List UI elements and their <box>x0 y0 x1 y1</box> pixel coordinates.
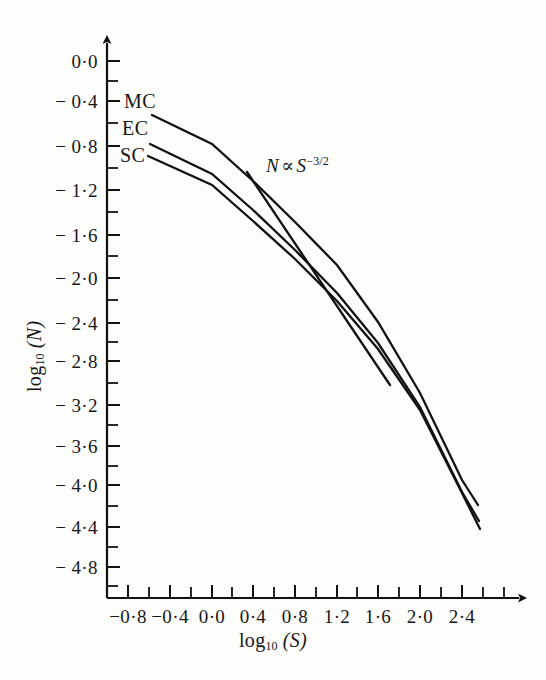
curve-label-sc: SC <box>120 145 145 165</box>
y-axis-title-subscript: 10 <box>33 354 47 366</box>
y-tick-label: − 2·0 <box>32 269 98 288</box>
y-axis-title: log10 (N) <box>24 321 46 392</box>
curve-sc <box>148 156 480 529</box>
y-tick-label: − 4·8 <box>32 558 98 577</box>
y-tick-label: − 1·6 <box>32 226 98 245</box>
y-axis-minor-ticks <box>107 81 118 586</box>
slope-annotation: N∝S−3/2 <box>266 155 329 175</box>
curve-ec <box>150 144 479 521</box>
x-axis-minor-ticks <box>107 587 504 598</box>
curve-label-ec: EC <box>122 118 149 138</box>
y-tick-label: 0·0 <box>32 52 98 71</box>
x-axis-major-ticks <box>128 585 462 598</box>
y-axis-title-variable: (N) <box>23 321 45 349</box>
y-tick-label: − 4·0 <box>32 476 98 495</box>
y-tick-label: − 3·6 <box>32 437 98 456</box>
annotation-base: N <box>266 155 279 176</box>
figure-chart-log-n-vs-log-s: 0·0 − 0·4 − 0·8 − 1·2 − 1·6 − 2·0 − 2·4 … <box>0 0 546 680</box>
reference-slope-line <box>247 172 390 385</box>
proportional-icon: ∝ <box>279 155 296 176</box>
y-axis-major-ticks <box>107 61 120 567</box>
x-tick-label: 2·4 <box>432 607 492 626</box>
x-axis-title-subscript: 10 <box>265 639 277 653</box>
x-axis <box>107 585 519 598</box>
y-axis <box>107 43 120 598</box>
x-axis-title-variable: (S) <box>283 629 307 651</box>
y-tick-label: − 3·2 <box>32 396 98 415</box>
annotation-exponent: −3/2 <box>307 154 329 168</box>
x-axis-title-main: log <box>239 629 265 651</box>
y-tick-label: − 1·2 <box>32 181 98 200</box>
data-curves <box>148 115 480 529</box>
y-tick-label: − 4·4 <box>32 518 98 537</box>
x-axis-title: log10 (S) <box>239 630 307 652</box>
y-tick-label: − 0·8 <box>32 137 98 156</box>
y-tick-label: − 0·4 <box>32 92 98 111</box>
curve-label-mc: MC <box>124 91 156 111</box>
annotation-variable: S <box>297 155 307 176</box>
y-axis-title-main: log <box>23 366 45 392</box>
